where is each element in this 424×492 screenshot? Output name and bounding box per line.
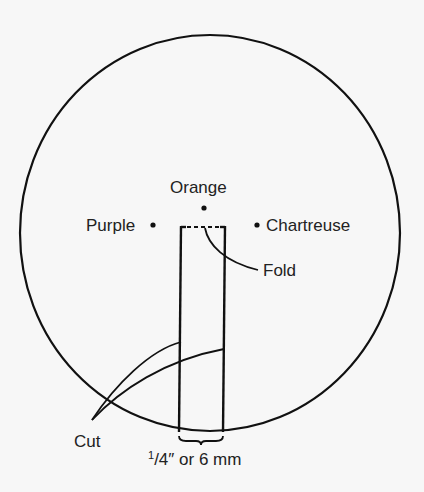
cut-line-lower bbox=[92, 349, 224, 420]
cut-line-upper bbox=[92, 342, 181, 420]
paper-circle-diagram: Orange Purple Chartreuse Fold Cut 1/4″ o… bbox=[0, 0, 424, 492]
purple-dot bbox=[150, 222, 155, 227]
orange-dot bbox=[201, 205, 206, 210]
orange-label: Orange bbox=[170, 178, 227, 197]
width-label: 1/4″ or 6 mm bbox=[148, 449, 241, 469]
purple-label: Purple bbox=[86, 216, 135, 235]
chartreuse-label: Chartreuse bbox=[266, 216, 350, 235]
width-brace bbox=[179, 436, 223, 445]
cut-label: Cut bbox=[74, 432, 101, 451]
strip-left-edge bbox=[179, 226, 181, 432]
chartreuse-dot bbox=[254, 222, 259, 227]
fold-pointer bbox=[205, 228, 258, 270]
fold-label: Fold bbox=[263, 261, 296, 280]
